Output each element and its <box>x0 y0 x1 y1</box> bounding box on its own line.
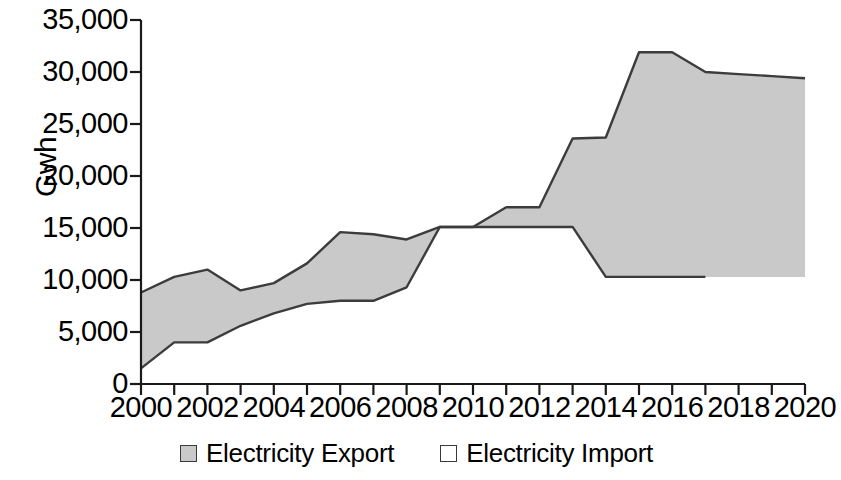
legend-label: Electricity Import <box>466 440 653 466</box>
legend-swatch-icon <box>440 445 457 462</box>
legend-label: Electricity Export <box>206 440 394 466</box>
legend-swatch-icon <box>180 445 197 462</box>
chart-legend: Electricity ExportElectricity Import <box>0 440 833 466</box>
legend-item: Electricity Export <box>180 440 394 466</box>
legend-item: Electricity Import <box>440 440 653 466</box>
area-series-layer <box>141 52 805 368</box>
area-band-export-import <box>141 52 805 368</box>
